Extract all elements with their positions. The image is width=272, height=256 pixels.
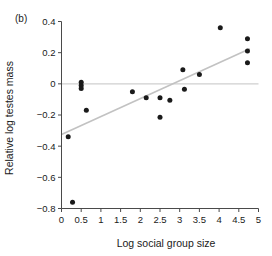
y-tick-label: −0.6 [37,172,56,183]
x-axis-ticks: 00.511.522.533.544.55 [59,209,261,225]
scatter-plot: 00.511.522.533.544.55 −0.8−0.6−0.4−0.200… [0,0,272,256]
y-tick-label: −0.2 [37,109,56,120]
x-tick-label: 1 [98,214,103,225]
data-point [70,200,75,205]
data-points-group [66,25,250,205]
y-tick-label: −0.8 [37,203,56,214]
data-point [158,95,163,100]
data-point [79,86,84,91]
data-point [197,72,202,77]
x-tick-label: 2 [138,214,143,225]
x-tick-label: 1.5 [114,214,127,225]
data-point [158,115,163,120]
y-axis-ticks: −0.8−0.6−0.4−0.200.20.4 [37,16,62,214]
data-point [245,60,250,65]
panel-label: (b) [15,13,27,24]
data-point [245,49,250,54]
data-point [218,25,223,30]
data-point [84,108,89,113]
data-point [182,87,187,92]
data-point [144,95,149,100]
regression-line-group [62,49,250,135]
data-point [66,134,71,139]
data-point [130,89,135,94]
y-tick-label: 0.2 [42,47,55,58]
x-tick-label: 0.5 [75,214,88,225]
x-tick-label: 2.5 [153,214,166,225]
x-tick-label: 3.5 [193,214,206,225]
x-tick-label: 4.5 [232,214,245,225]
regression-line [62,49,250,135]
y-axis-title: Relative log testes mass [3,61,15,175]
x-tick-label: 4 [216,214,221,225]
data-point [167,98,172,103]
x-tick-label: 3 [177,214,182,225]
y-tick-label: 0.4 [42,16,55,27]
x-axis-title: Log social group size [117,237,216,249]
figure-panel-b: 00.511.522.533.544.55 −0.8−0.6−0.4−0.200… [0,0,272,256]
y-tick-label: 0 [50,78,55,89]
data-point [180,67,185,72]
x-tick-label: 5 [256,214,261,225]
y-tick-label: −0.4 [37,141,56,152]
x-tick-label: 0 [59,214,64,225]
data-point [245,36,250,41]
